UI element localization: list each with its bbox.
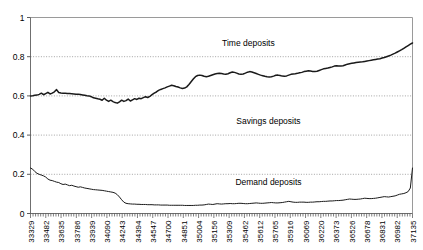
- x-tick-label: 36069: [302, 220, 311, 243]
- x-tick-label: 35765: [271, 220, 280, 243]
- x-tick-label: 36526: [348, 220, 357, 243]
- x-tick-label: 35916: [286, 220, 295, 243]
- series-line-time-deposits: [31, 43, 413, 103]
- x-tick-label: 35309: [225, 220, 234, 243]
- annotation-savings-deposits: Savings deposits: [236, 116, 300, 126]
- y-tick-label: 0: [20, 209, 25, 219]
- x-tick-label: 34851: [180, 220, 189, 243]
- y-tick-label: 0.8: [13, 52, 25, 62]
- series-annotations: Time depositsSavings depositsDemand depo…: [222, 38, 301, 187]
- x-tick-label: 35156: [210, 220, 219, 243]
- y-tick-label: 0.2: [13, 169, 25, 179]
- y-tick-label: 1: [20, 13, 25, 23]
- x-tick-label: 36831: [378, 220, 387, 243]
- annotation-time-deposits: Time deposits: [222, 38, 275, 48]
- series-line-demand-deposits: [31, 168, 413, 205]
- x-tick-marks: [31, 214, 413, 219]
- x-axis-labels: 3332933482336353378633939340903424334394…: [27, 220, 418, 243]
- x-tick-label: 34700: [164, 220, 173, 243]
- x-tick-label: 35004: [195, 220, 204, 243]
- x-tick-label: 33635: [57, 220, 66, 243]
- x-tick-label: 35462: [241, 220, 250, 243]
- x-tick-label: 36220: [317, 220, 326, 243]
- x-tick-label: 33329: [27, 220, 36, 243]
- data-series-group: [31, 43, 413, 205]
- x-tick-label: 37135: [409, 220, 418, 243]
- x-tick-label: 33939: [88, 220, 97, 243]
- x-tick-label: 34547: [149, 220, 158, 243]
- x-tick-label: 34090: [103, 220, 112, 243]
- chart-container: 00.20.40.60.8133329334823363533786339393…: [0, 0, 423, 250]
- y-tick-label: 0.4: [13, 130, 25, 140]
- x-tick-label: 33786: [73, 220, 82, 243]
- y-tick-label: 0.6: [13, 91, 25, 101]
- x-tick-label: 34394: [134, 220, 143, 243]
- x-tick-label: 36373: [332, 220, 341, 243]
- annotation-demand-deposits: Demand deposits: [235, 177, 301, 187]
- x-tick-label: 36678: [363, 220, 372, 243]
- x-tick-label: 35612: [256, 220, 265, 243]
- gridlines: [31, 57, 413, 214]
- x-tick-label: 34243: [118, 220, 127, 243]
- x-tick-label: 33482: [42, 220, 51, 243]
- y-axis: 00.20.40.60.81: [13, 13, 31, 219]
- deposits-line-chart: 00.20.40.60.8133329334823363533786339393…: [0, 0, 423, 250]
- x-tick-label: 36982: [393, 220, 402, 243]
